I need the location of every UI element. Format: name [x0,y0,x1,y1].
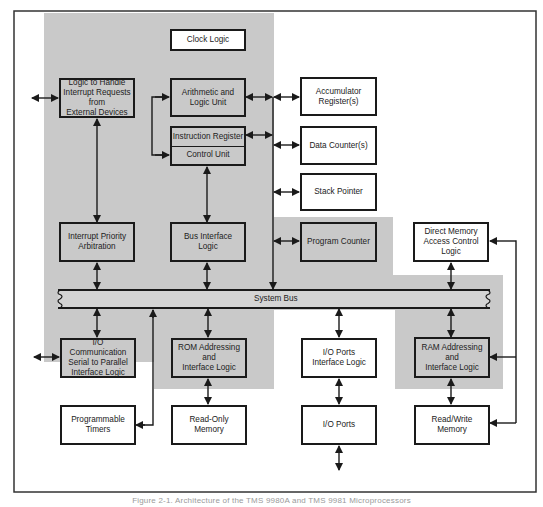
ram-addressing-label: RAM Addressing and Interface Logic [422,343,483,373]
read-only-memory-block: Read-Only Memory [171,405,247,445]
alu-label: Arithmetic and Logic Unit [182,88,234,108]
architecture-diagram: Clock Logic Logic to Handle Interrupt Re… [0,0,543,507]
bus-interface-block: Bus Interface Logic [170,222,246,262]
data-counters-label: Data Counter(s) [309,141,367,151]
accumulator-label: Accumulator Register(s) [316,87,362,107]
figure-caption: Figure 2-1. Architecture of the TMS 9980… [0,496,543,505]
io-communication-label: I/O Communication Serial to Parallel Int… [64,338,132,378]
interrupt-logic-block: Logic to Handle Interrupt Requests from … [59,78,135,118]
stack-pointer-label: Stack Pointer [314,187,363,197]
io-ports-block: I/O Ports [301,405,377,445]
stack-pointer-block: Stack Pointer [300,173,377,211]
accumulator-block: Accumulator Register(s) [300,77,377,116]
read-only-memory-label: Read-Only Memory [189,415,228,435]
program-counter-label: Program Counter [307,237,370,247]
rom-addressing-label: ROM Addressing and Interface Logic [178,343,240,373]
io-ports-interface-label: I/O Ports Interface Logic [312,348,366,368]
programmable-timers-block: Programmable Timers [60,405,136,445]
interrupt-logic-label: Logic to Handle Interrupt Requests from … [63,78,130,118]
instruction-register-cell: Instruction Register [172,128,244,147]
clock-logic-block: Clock Logic [170,29,246,51]
instruction-register-label: Instruction Register [173,132,244,142]
system-bus-label: System Bus [254,294,298,303]
instruction-control-block: Instruction Register Control Unit [170,126,246,166]
control-unit-label: Control Unit [186,150,229,160]
io-ports-label: I/O Ports [323,420,355,430]
io-communication-block: I/O Communication Serial to Parallel Int… [60,338,136,378]
bus-interface-label: Bus Interface Logic [184,232,232,252]
io-ports-interface-block: I/O Ports Interface Logic [301,338,377,378]
read-write-memory-block: Read/Write Memory [414,405,490,445]
alu-block: Arithmetic and Logic Unit [170,78,246,117]
rom-addressing-block: ROM Addressing and Interface Logic [171,338,247,378]
dma-label: Direct Memory Access Control Logic [423,227,478,257]
programmable-timers-label: Programmable Timers [71,415,125,435]
control-unit-cell: Control Unit [172,147,244,165]
dma-block: Direct Memory Access Control Logic [413,222,489,262]
program-counter-block: Program Counter [300,222,377,262]
clock-logic-label: Clock Logic [187,35,229,45]
data-counters-block: Data Counter(s) [300,126,377,165]
read-write-memory-label: Read/Write Memory [432,415,473,435]
interrupt-priority-block: Interrupt Priority Arbitration [59,222,135,262]
interrupt-priority-label: Interrupt Priority Arbitration [68,232,126,252]
ram-addressing-block: RAM Addressing and Interface Logic [414,337,490,378]
